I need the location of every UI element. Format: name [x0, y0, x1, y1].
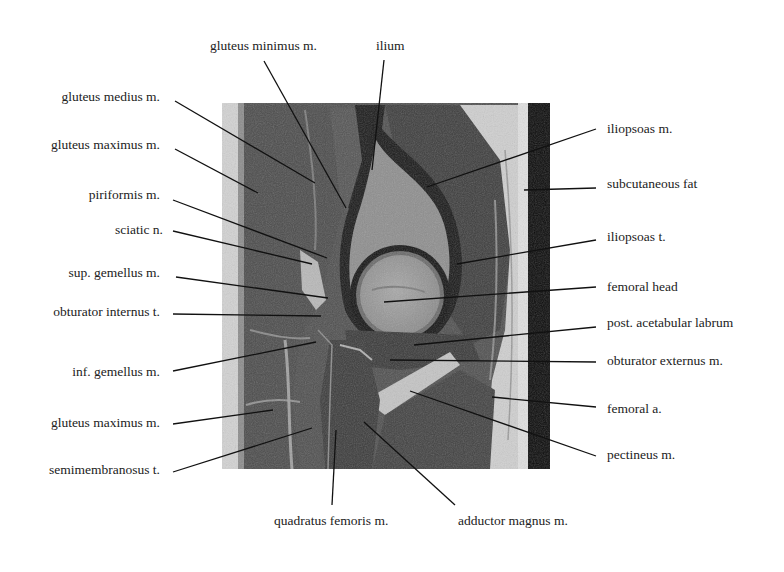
label-gluteus-medius: gluteus medius m. [61, 89, 160, 105]
label-piriformis: piriformis m. [89, 187, 160, 203]
label-iliopsoas-t: iliopsoas t. [607, 229, 666, 245]
label-post-acetabular-labrum: post. acetabular labrum [607, 315, 733, 331]
label-gluteus-minimus: gluteus minimus m. [210, 38, 317, 54]
anatomy-figure: gluteus minimus m. ilium gluteus medius … [0, 0, 784, 572]
label-gluteus-maximus-upper: gluteus maximus m. [51, 137, 160, 153]
label-semimembranosus: semimembranosus t. [49, 462, 160, 478]
label-femoral-head: femoral head [607, 279, 678, 295]
label-sciatic-nerve: sciatic n. [115, 222, 163, 238]
label-obturator-internus: obturator internus t. [53, 304, 160, 320]
label-adductor-magnus: adductor magnus m. [458, 513, 568, 529]
label-iliopsoas-m: iliopsoas m. [607, 121, 672, 137]
label-ilium: ilium [376, 38, 405, 54]
label-gluteus-maximus-lower: gluteus maximus m. [51, 415, 160, 431]
label-quadratus-femoris: quadratus femoris m. [274, 513, 388, 529]
label-obturator-externus: obturator externus m. [607, 353, 723, 369]
label-subcutaneous-fat: subcutaneous fat [607, 176, 697, 192]
label-pectineus: pectineus m. [607, 447, 675, 463]
label-inf-gemellus: inf. gemellus m. [72, 364, 160, 380]
label-femoral-artery: femoral a. [607, 401, 662, 417]
label-sup-gemellus: sup. gemellus m. [69, 265, 161, 281]
